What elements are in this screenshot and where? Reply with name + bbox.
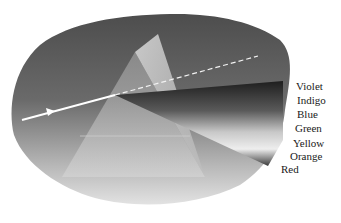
label-blue: Blue bbox=[297, 109, 318, 120]
prism-diagram bbox=[0, 0, 341, 223]
label-red: Red bbox=[281, 164, 299, 175]
label-yellow: Yellow bbox=[293, 138, 324, 149]
label-green: Green bbox=[295, 123, 322, 134]
label-violet: Violet bbox=[296, 81, 323, 92]
label-orange: Orange bbox=[290, 151, 322, 162]
label-indigo: Indigo bbox=[297, 95, 326, 106]
